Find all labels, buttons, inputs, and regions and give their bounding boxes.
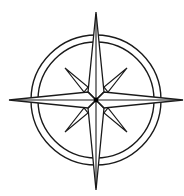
point-southeast	[104, 108, 127, 132]
compass-rose-icon	[0, 0, 184, 196]
point-northeast	[104, 68, 127, 92]
point-northwest	[65, 68, 88, 92]
center-dot	[94, 98, 99, 103]
point-southwest	[65, 108, 88, 132]
